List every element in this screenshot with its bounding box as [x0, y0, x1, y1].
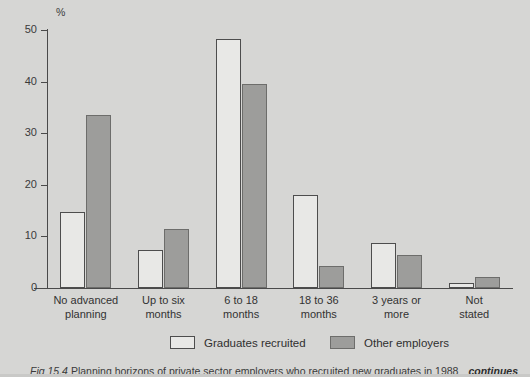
- category-label-line: Up to six: [125, 294, 203, 308]
- y-axis-unit-label: %: [56, 6, 65, 18]
- category-label-line: stated: [435, 308, 513, 322]
- category-label-line: months: [280, 308, 358, 322]
- x-axis-category-label: No advancedplanning: [47, 294, 125, 321]
- bar-group: [138, 30, 189, 288]
- legend-label: Graduates recruited: [204, 337, 306, 349]
- bar-other-employers: [475, 277, 500, 288]
- x-axis-category-label: Up to sixmonths: [125, 294, 203, 321]
- bar-graduates-recruited: [60, 212, 85, 288]
- legend-swatch-white: [170, 336, 195, 349]
- chart-legend: Graduates recruitedOther employers: [0, 336, 530, 354]
- category-label-line: Not: [435, 294, 513, 308]
- figure-container: % 50403020100 No advancedplanningUp to s…: [0, 0, 530, 377]
- y-axis-tick: 0: [0, 288, 47, 289]
- legend-swatch-grey: [330, 336, 355, 349]
- y-axis-tick-label: 10: [1, 230, 37, 241]
- y-axis-tick-label: 20: [1, 179, 37, 190]
- bar-group: [371, 30, 422, 288]
- category-label-line: 18 to 36: [280, 294, 358, 308]
- category-label-line: months: [125, 308, 203, 322]
- bar-group: [449, 30, 500, 288]
- bar-group: [216, 30, 267, 288]
- bar-graduates-recruited: [371, 243, 396, 288]
- category-label-line: more: [358, 308, 436, 322]
- y-axis-tick-label: 0: [1, 282, 37, 293]
- y-axis-tick: 50: [0, 30, 47, 31]
- y-axis-tick-mark: [41, 288, 47, 289]
- bar-graduates-recruited: [293, 195, 318, 288]
- legend-item: Other employers: [330, 336, 449, 349]
- category-label-line: 6 to 18: [202, 294, 280, 308]
- x-axis-category-label: Notstated: [435, 294, 513, 321]
- bar-graduates-recruited: [138, 250, 163, 288]
- bar-other-employers: [319, 266, 344, 288]
- category-label-line: months: [202, 308, 280, 322]
- x-axis-category-labels: No advancedplanningUp to sixmonths6 to 1…: [47, 294, 513, 328]
- x-axis-category-label: 6 to 18months: [202, 294, 280, 321]
- category-label-line: 3 years or: [358, 294, 436, 308]
- x-axis-category-label: 18 to 36months: [280, 294, 358, 321]
- bar-other-employers: [397, 255, 422, 288]
- bar-other-employers: [164, 229, 189, 288]
- y-axis-tick: 20: [0, 185, 47, 186]
- legend-item: Graduates recruited: [170, 336, 306, 349]
- y-axis-tick: 30: [0, 133, 47, 134]
- y-axis-tick: 40: [0, 82, 47, 83]
- y-axis-tick-label: 40: [1, 76, 37, 87]
- bar-group: [60, 30, 111, 288]
- bar-other-employers: [86, 115, 111, 288]
- x-axis-category-label: 3 years ormore: [358, 294, 436, 321]
- bar-graduates-recruited: [216, 39, 241, 288]
- y-axis-tick-label: 50: [1, 24, 37, 35]
- bar-other-employers: [242, 84, 267, 288]
- bar-groups: [47, 30, 513, 288]
- y-axis-tick-label: 30: [1, 127, 37, 138]
- y-axis-tick: 10: [0, 236, 47, 237]
- category-label-line: planning: [47, 308, 125, 322]
- bar-group: [293, 30, 344, 288]
- legend-label: Other employers: [364, 337, 449, 349]
- category-label-line: No advanced: [47, 294, 125, 308]
- x-axis-line: [34, 288, 513, 289]
- bar-graduates-recruited: [449, 283, 474, 288]
